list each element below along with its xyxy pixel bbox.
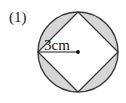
item-number-label: (1) bbox=[9, 9, 27, 25]
radius-measure-label: 3cm bbox=[44, 37, 70, 53]
center-dot bbox=[76, 50, 80, 54]
figure-container: (1) 3cm bbox=[0, 0, 126, 103]
